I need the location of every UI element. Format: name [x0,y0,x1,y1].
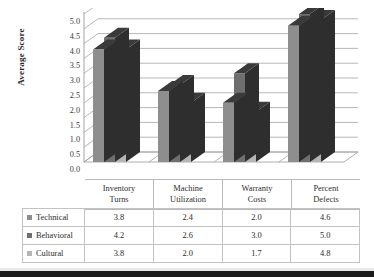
category-label-1: MachineUtilization [154,180,223,209]
legend-swatch-icon [27,233,32,238]
y-axis-tick-5.0: 5.0 [54,18,80,26]
legend-label: Cultural [36,249,63,258]
table-cell-behavioral-1: 2.6 [154,227,223,244]
legend-item-technical[interactable]: Technical [22,209,85,226]
table-row: Behavioral4.22.63.05.0 [22,227,360,245]
table-cell-technical-0: 3.8 [85,209,154,226]
y-axis-tick-4.5: 4.5 [54,33,80,41]
legend-swatch-icon [27,215,32,220]
y-axis-tick-4.0: 4.0 [54,48,80,56]
bar-technical-2 [223,93,248,162]
table-cell-technical-2: 2.0 [223,209,292,226]
table-cell-cultural-2: 1.7 [223,245,292,262]
category-label-line: Turns [109,195,128,206]
category-label-2: WarrantyCosts [223,180,292,209]
category-label-line: Percent [313,184,338,195]
table-cell-cultural-1: 2.0 [154,245,223,262]
bar-chart-svg [82,8,360,178]
table-row: Technical3.82.42.04.6 [22,208,360,227]
y-axis-tick-0.0: 0.0 [54,166,80,174]
y-axis-tick-2.0: 2.0 [54,107,80,115]
category-label-line: Warranty [242,184,273,195]
y-axis-tick-1.0: 1.0 [54,136,80,144]
category-label-0: InventoryTurns [85,180,154,209]
legend-swatch-icon [27,251,32,256]
category-label-3: PercentDefects [292,180,360,209]
y-axis-tick-0.5: 0.5 [54,151,80,159]
bar-technical-0 [93,40,118,162]
y-axis-tick-2.5: 2.5 [54,92,80,100]
table-cell-technical-1: 2.4 [154,209,223,226]
category-header-row: InventoryTurnsMachineUtilizationWarranty… [85,179,360,210]
bar-technical-1 [158,81,183,162]
table-cell-behavioral-0: 4.2 [85,227,154,244]
bar-group-all [93,8,335,162]
data-table: Technical3.82.42.04.6Behavioral4.22.63.0… [22,208,360,259]
category-label-line: Defects [313,195,339,206]
category-label-line: Machine [173,184,202,195]
y-axis-tick-1.5: 1.5 [54,122,80,130]
table-cell-cultural-3: 4.8 [291,245,360,262]
table-cell-technical-3: 4.6 [291,209,360,226]
table-cell-behavioral-3: 5.0 [291,227,360,244]
category-label-line: Inventory [103,184,136,195]
category-label-line: Utilization [170,195,206,206]
y-axis-title: Average Score [16,2,26,112]
table-cell-cultural-0: 3.8 [85,245,154,262]
legend-item-behavioral[interactable]: Behavioral [22,227,85,244]
table-cell-behavioral-2: 3.0 [223,227,292,244]
y-axis-tick-3.0: 3.0 [54,77,80,85]
legend-label: Technical [36,213,68,222]
table-row: Cultural3.82.01.74.8 [22,245,360,263]
category-label-line: Costs [248,195,267,206]
plot-area [82,8,360,178]
y-axis-tick-labels: 5.04.54.03.53.02.52.01.51.00.50.0 [54,0,80,186]
chart-container: Average Score 5.04.54.03.53.02.52.01.51.… [0,0,374,277]
page-edge-band [0,271,374,277]
y-axis-tick-3.5: 3.5 [54,62,80,70]
bar-technical-3 [288,16,313,162]
legend-label: Behavioral [36,231,73,240]
legend-item-cultural[interactable]: Cultural [22,245,85,262]
